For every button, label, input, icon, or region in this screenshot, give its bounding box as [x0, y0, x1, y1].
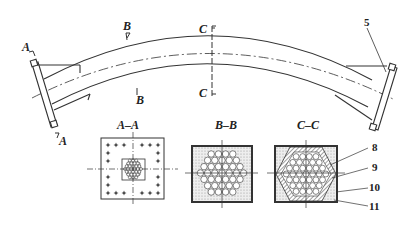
wire-strand: [130, 162, 133, 165]
section-mark-a-bottom: A: [58, 134, 67, 148]
section-b-b: [185, 140, 258, 208]
wire-strand: [127, 173, 130, 176]
wire-strand: [208, 176, 214, 182]
wire-strand: [323, 171, 329, 177]
wire-strand: [320, 177, 326, 183]
wire-strand: [226, 182, 232, 188]
wire-strand: [290, 171, 296, 177]
engineering-drawing: A A B B C C 5 A–A B–B C–C 8: [0, 0, 418, 226]
wire-strand: [138, 170, 141, 173]
wire-strand: [306, 165, 312, 171]
wire-strand: [222, 176, 228, 182]
wire-strand: [135, 176, 138, 179]
callout-10: 10: [369, 181, 381, 193]
wire-strand: [237, 176, 243, 182]
wire-strand: [208, 163, 214, 169]
callout-8: 8: [372, 141, 378, 153]
section-a-a: [87, 132, 178, 205]
wire-strand: [316, 183, 322, 189]
wire-strand: [208, 189, 214, 195]
wire-strand: [215, 189, 221, 195]
section-c-title: C–C: [297, 118, 320, 132]
wire-strand: [204, 182, 210, 188]
wire-strand: [310, 183, 316, 189]
section-mark-a-top: A: [21, 40, 30, 54]
wire-strand: [136, 162, 139, 165]
wire-strand: [310, 159, 316, 165]
wire-strand: [233, 157, 239, 163]
wire-strand: [300, 177, 306, 183]
wire-strand: [136, 173, 139, 176]
wire-strand: [306, 154, 312, 160]
section-mark-c-bottom: C: [199, 86, 208, 100]
wire-strand: [135, 165, 138, 168]
callout-11: 11: [369, 200, 379, 212]
wire-strand: [125, 165, 128, 168]
wire-strand: [138, 165, 141, 168]
wire-strand: [293, 177, 299, 183]
wire-strand: [128, 176, 131, 179]
wire-strand: [212, 157, 218, 163]
wire-strand: [133, 162, 136, 165]
wire-strand: [127, 162, 130, 165]
wire-strand: [313, 165, 319, 171]
wire-strand: [316, 171, 322, 177]
wire-strand: [215, 163, 221, 169]
section-c-c: [267, 140, 345, 208]
wire-strand: [313, 188, 319, 194]
curved-pipe: [32, 36, 395, 107]
wire-strand: [290, 183, 296, 189]
wire-strand: [316, 159, 322, 165]
wire-strand: [204, 157, 210, 163]
right-flange: [335, 63, 397, 130]
wire-strand: [130, 173, 133, 176]
wire-strand: [222, 151, 228, 157]
wire-strand: [208, 151, 214, 157]
wire-strand: [300, 165, 306, 171]
wire-strand: [283, 171, 289, 177]
wire-strand: [230, 176, 236, 182]
wire-strand: [296, 159, 302, 165]
wire-strand: [128, 170, 131, 173]
callout-9: 9: [372, 161, 378, 173]
wire-strand: [201, 163, 207, 169]
wire-strand: [128, 165, 131, 168]
wire-strand: [212, 182, 218, 188]
wire-strand: [306, 188, 312, 194]
wire-strand: [310, 171, 316, 177]
wire-strand: [226, 157, 232, 163]
wire-strand: [201, 176, 207, 182]
section-mark-b-bottom: B: [135, 93, 144, 107]
wire-strand: [135, 159, 138, 162]
wire-strand: [296, 171, 302, 177]
callout-5: 5: [364, 16, 370, 28]
wire-strand: [230, 189, 236, 195]
wire-strand: [293, 154, 299, 160]
wire-strand: [313, 154, 319, 160]
section-mark-b-top: B: [122, 19, 131, 33]
wire-strand: [300, 188, 306, 194]
wire-strand: [306, 177, 312, 183]
wire-strand: [233, 182, 239, 188]
wire-strand: [320, 165, 326, 171]
wire-strand: [313, 177, 319, 183]
wire-strand: [230, 151, 236, 157]
wire-strand: [222, 189, 228, 195]
wire-strand: [300, 154, 306, 160]
wire-strand: [135, 170, 138, 173]
section-a-title: A–A: [116, 118, 139, 132]
pipe-top-edge: [44, 36, 372, 80]
section-b-title: B–B: [214, 118, 237, 132]
wire-strand: [128, 159, 131, 162]
left-flange: [30, 59, 90, 127]
wire-strand: [296, 183, 302, 189]
wire-strand: [293, 188, 299, 194]
wire-strand: [215, 176, 221, 182]
wire-strand: [287, 165, 293, 171]
wire-strand: [287, 177, 293, 183]
wire-strand: [230, 163, 236, 169]
section-mark-c-top: C: [199, 22, 208, 36]
wire-strand: [290, 159, 296, 165]
wire-strand: [293, 165, 299, 171]
wire-strand: [125, 170, 128, 173]
